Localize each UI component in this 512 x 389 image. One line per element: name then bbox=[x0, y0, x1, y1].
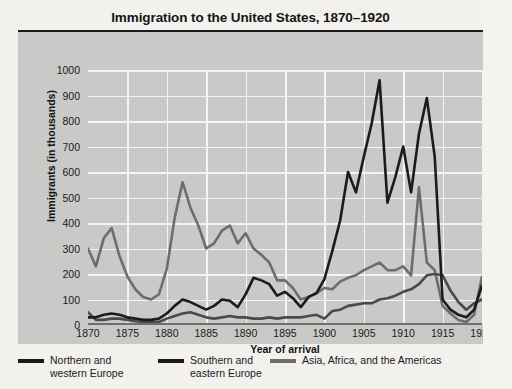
legend-item: Asia, Africa, and the Americas bbox=[270, 354, 441, 367]
x-tick-label: 1870 bbox=[76, 327, 99, 339]
legend-item: Northern and western Europe bbox=[18, 354, 124, 379]
legend-swatch bbox=[270, 359, 296, 363]
y-tick-label: 800 bbox=[62, 115, 80, 127]
legend-item: Southern and eastern Europe bbox=[158, 354, 262, 379]
y-tick-label: 200 bbox=[62, 268, 80, 280]
x-tick-label: 1895 bbox=[273, 327, 296, 339]
legend-label: Northern and western Europe bbox=[50, 354, 124, 379]
immigration-chart-figure: Immigration to the United States, 1870–1… bbox=[0, 0, 512, 389]
chart-panel: Immigrants (in thousands) 01002003004005… bbox=[18, 32, 483, 344]
chart-title-band: Immigration to the United States, 1870–1… bbox=[18, 5, 483, 29]
legend-swatch bbox=[18, 359, 44, 363]
x-tick-label: 1900 bbox=[313, 327, 336, 339]
x-axis-tick-labels: 1870187518801885189018951900190519101915… bbox=[88, 327, 482, 343]
y-tick-label: 400 bbox=[62, 217, 80, 229]
series-line bbox=[88, 182, 482, 322]
y-tick-label: 100 bbox=[62, 294, 80, 306]
legend-swatch bbox=[158, 359, 184, 363]
series-lines bbox=[88, 70, 482, 325]
x-tick-label: 1880 bbox=[155, 327, 178, 339]
y-tick-label: 700 bbox=[62, 141, 80, 153]
x-tick-label: 1915 bbox=[431, 327, 454, 339]
y-axis-tick-labels: 01002003004005006007008009001000 bbox=[18, 70, 84, 325]
y-tick-label: 600 bbox=[62, 166, 80, 178]
x-tick-label: 1905 bbox=[352, 327, 375, 339]
x-tick-label: 1910 bbox=[392, 327, 415, 339]
y-tick-label: 1000 bbox=[57, 64, 80, 76]
y-tick-label: 300 bbox=[62, 243, 80, 255]
series-line bbox=[88, 80, 482, 320]
x-axis-line bbox=[88, 323, 482, 325]
page-title: Immigration to the United States, 1870–1… bbox=[111, 10, 390, 25]
legend-label: Asia, Africa, and the Americas bbox=[302, 354, 441, 367]
y-tick-label: 900 bbox=[62, 90, 80, 102]
y-tick-label: 500 bbox=[62, 192, 80, 204]
chart-legend: Northern and western EuropeSouthern and … bbox=[0, 352, 512, 389]
page-margin bbox=[483, 0, 512, 389]
x-tick-label: 1890 bbox=[234, 327, 257, 339]
legend-label: Southern and eastern Europe bbox=[190, 354, 262, 379]
x-tick-label: 1875 bbox=[116, 327, 139, 339]
x-tick-label: 1885 bbox=[195, 327, 218, 339]
plot-area bbox=[88, 70, 482, 325]
